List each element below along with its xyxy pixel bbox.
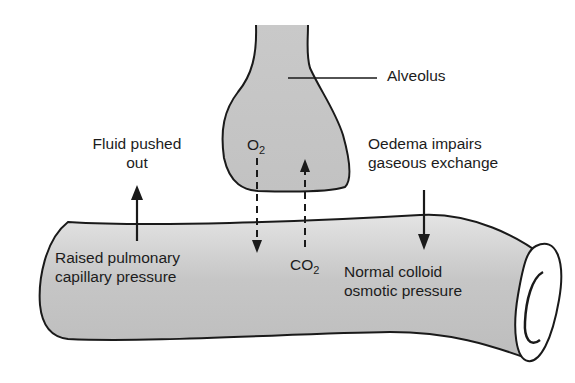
alveolus-shape	[223, 25, 350, 192]
o2-subscript: 2	[259, 144, 265, 156]
oedema-label: Oedema impairs gaseous exchange	[368, 134, 498, 172]
oedema-line-1: Oedema impairs	[368, 134, 498, 153]
normal-line-2: osmotic pressure	[344, 281, 462, 300]
normal-line-1: Normal colloid	[344, 262, 462, 281]
fluid-pushed-out-label: Fluid pushed out	[72, 134, 202, 172]
co2-main: CO	[290, 256, 313, 273]
raised-line-2: capillary pressure	[55, 267, 180, 286]
fluid-line-2: out	[72, 153, 202, 172]
co2-subscript: 2	[313, 264, 319, 276]
fluid-line-1: Fluid pushed	[72, 134, 202, 153]
normal-pressure-label: Normal colloid osmotic pressure	[344, 262, 462, 300]
co2-label: CO2	[290, 255, 319, 276]
raised-pressure-label: Raised pulmonary capillary pressure	[55, 248, 180, 286]
capillary-vessel	[40, 215, 562, 361]
oedema-line-2: gaseous exchange	[368, 153, 498, 172]
o2-label: O2	[247, 135, 265, 156]
o2-main: O	[247, 136, 259, 153]
alveolus-label: Alveolus	[387, 66, 446, 85]
raised-line-1: Raised pulmonary	[55, 248, 180, 267]
diagram-canvas	[0, 0, 575, 383]
